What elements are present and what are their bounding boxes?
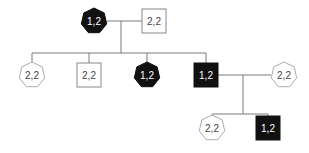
pedigree-diagram: 1,2 2,2 2,2 2,2 1,2 1,2 2,2 2,2 1,2 (0, 0, 309, 153)
genotype-label: 2,2 (205, 123, 219, 134)
genotype-label: 1,2 (140, 70, 154, 81)
individual-I-2: 2,2 (142, 9, 166, 33)
individual-II-4: 1,2 (194, 63, 218, 87)
individual-II-3: 1,2 (134, 62, 159, 87)
genotype-label: 1,2 (87, 16, 101, 27)
genotype-label: 2,2 (277, 70, 291, 81)
genotype-label: 2,2 (25, 70, 39, 81)
individual-II-1: 2,2 (19, 62, 44, 87)
individual-I-1: 1,2 (81, 8, 106, 33)
individual-II-2: 2,2 (77, 63, 101, 87)
genotype-label: 2,2 (82, 70, 96, 81)
genotype-label: 1,2 (261, 123, 275, 134)
individual-III-1: 2,2 (199, 115, 224, 140)
individual-III-2: 1,2 (256, 116, 280, 140)
individual-II-5: 2,2 (271, 62, 296, 87)
genotype-label: 1,2 (199, 70, 213, 81)
genotype-label: 2,2 (147, 16, 161, 27)
